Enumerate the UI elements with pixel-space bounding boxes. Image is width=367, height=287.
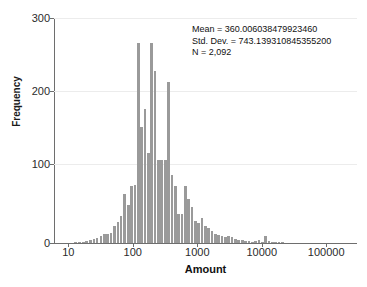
x-axis-title: Amount — [54, 263, 357, 275]
histogram-bar — [234, 239, 237, 243]
histogram-bar — [187, 199, 190, 243]
y-axis-title: Frequency — [11, 52, 22, 152]
gridline-200 — [54, 91, 357, 92]
histogram-bar — [177, 214, 180, 243]
stats-n: N = 2,092 — [192, 47, 331, 59]
histogram-bar — [174, 186, 177, 243]
histogram-bar — [211, 231, 214, 243]
x-axis-labels: 10100100010000100000 — [54, 246, 357, 262]
gridline-300 — [54, 18, 357, 19]
histogram-bar — [258, 240, 261, 243]
gridline-100 — [54, 164, 357, 165]
histogram-bar — [248, 241, 251, 243]
histogram-bar — [268, 241, 271, 243]
stats-mean: Mean = 360.006038479923460 — [192, 24, 331, 36]
histogram-bar — [110, 233, 113, 243]
histogram-bar — [100, 236, 103, 243]
y-tick-label-300: 300 — [16, 13, 50, 24]
histogram-bar — [113, 226, 116, 243]
histogram-bar — [74, 242, 77, 243]
y-tick-label-0: 0 — [16, 238, 50, 249]
histogram-bar — [134, 185, 137, 243]
histogram-bar — [254, 241, 257, 243]
histogram-bar — [120, 216, 123, 243]
histogram-bar — [281, 242, 284, 243]
histogram-bar — [207, 228, 210, 243]
histogram-bar — [271, 242, 274, 243]
histogram-bar — [127, 205, 130, 243]
histogram-bar — [160, 160, 163, 243]
histogram-bar — [150, 43, 153, 243]
histogram-bar — [224, 237, 227, 243]
histogram-bar — [181, 214, 184, 243]
histogram-bar — [221, 236, 224, 243]
histogram-bar — [171, 175, 174, 243]
histogram-bar — [130, 186, 133, 243]
histogram-bar — [227, 236, 230, 243]
histogram-bar — [154, 71, 157, 243]
histogram-bar — [184, 186, 187, 243]
y-tick-label-100: 100 — [16, 159, 50, 170]
histogram-bar — [197, 223, 200, 243]
histogram-bar — [96, 238, 99, 243]
x-tick-label-10000: 10000 — [246, 246, 277, 258]
stats-std-dev: Std. Dev. = 743.139310845355200 — [192, 36, 331, 48]
histogram-chart: 300 200 100 0 Frequency 1010010001000010… — [0, 0, 367, 287]
x-tick-label-100000: 100000 — [308, 246, 345, 258]
histogram-bar — [164, 160, 167, 243]
histogram-bar — [191, 207, 194, 243]
histogram-bar — [231, 237, 234, 243]
histogram-bar — [89, 240, 92, 243]
histogram-bar — [261, 242, 264, 243]
histogram-bar — [167, 82, 170, 243]
histogram-bar — [278, 242, 281, 243]
histogram-bar — [274, 242, 277, 243]
x-axis-line — [54, 243, 357, 244]
histogram-bar — [244, 241, 247, 243]
histogram-bar — [103, 234, 106, 243]
histogram-bar — [144, 109, 147, 243]
histogram-bar — [217, 235, 220, 243]
histogram-bar — [237, 240, 240, 243]
histogram-bar — [241, 240, 244, 243]
histogram-bar — [137, 43, 140, 243]
histogram-bar — [214, 234, 217, 243]
histogram-bar — [251, 242, 254, 243]
histogram-bar — [201, 218, 204, 243]
histogram-bar — [78, 242, 81, 243]
x-tick-label-10: 10 — [62, 246, 74, 258]
histogram-bar — [264, 236, 267, 243]
histogram-bar — [123, 194, 126, 243]
histogram-bar — [85, 241, 88, 243]
histogram-bar — [194, 221, 197, 243]
histogram-bar — [204, 226, 207, 243]
x-tick-label-1000: 1000 — [185, 246, 209, 258]
histogram-bar — [147, 153, 150, 243]
histogram-bar — [157, 160, 160, 243]
x-tick-label-100: 100 — [124, 246, 142, 258]
stats-annotation: Mean = 360.006038479923460 Std. Dev. = 7… — [192, 24, 331, 59]
